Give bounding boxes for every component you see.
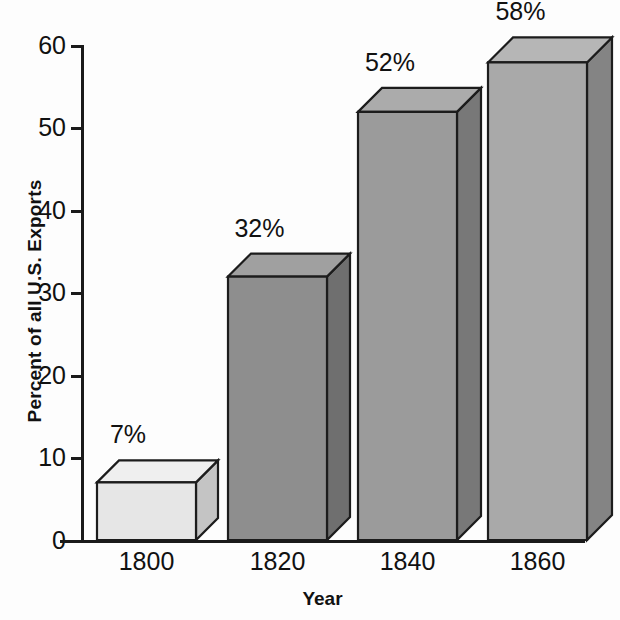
x-tick-label-1860: 1860 — [478, 549, 598, 574]
bar-1860[interactable] — [488, 37, 612, 540]
bars-container — [0, 0, 620, 620]
bar-side-face — [327, 254, 350, 540]
bar-value-label-1800: 7% — [68, 422, 188, 447]
bar-value-label-1820: 32% — [200, 216, 320, 241]
bar-front-face — [228, 277, 327, 540]
bar-1840[interactable] — [358, 88, 481, 540]
bar-front-face — [97, 482, 196, 540]
x-tick-label-1820: 1820 — [218, 549, 338, 574]
x-tick-label-1840: 1840 — [348, 549, 468, 574]
bar-side-face — [587, 37, 612, 540]
bar-front-face — [358, 112, 457, 540]
bar-top-face — [97, 460, 218, 482]
bar-1800[interactable] — [97, 460, 218, 540]
x-axis-line — [60, 540, 585, 543]
bar-value-label-1840: 52% — [330, 50, 450, 75]
bar-front-face — [488, 62, 587, 540]
x-axis-title: Year — [60, 588, 585, 610]
bar-top-face — [228, 254, 350, 277]
bar-value-label-1860: 58% — [461, 0, 581, 24]
bar-1820[interactable] — [228, 254, 350, 540]
bar-chart: Percent of all U.S. Exports 60 50 40 30 … — [0, 0, 620, 620]
x-tick-label-1800: 1800 — [87, 549, 207, 574]
bar-side-face — [457, 88, 481, 540]
